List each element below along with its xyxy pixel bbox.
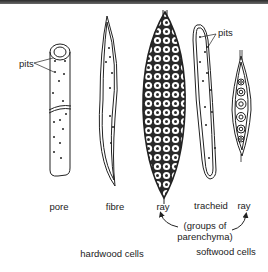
softwood-ray-cell [232,50,251,162]
parenchyma-annotation-line2: parenchyma) [177,231,232,242]
pore-cell [34,44,71,176]
fibre-label: fibre [106,201,124,212]
tracheid-cell [193,25,216,179]
softwood-group-label: softwood cells [196,246,256,257]
pore-label: pore [49,201,68,212]
hardwood-group-label: hardwood cells [80,248,143,259]
softwood-ray-label: ray [237,200,250,211]
hardwood-ray-cell [143,10,185,204]
fibre-cell [99,16,117,186]
hardwood-ray-label: ray [156,201,169,212]
parenchyma-annotation-line1: (groups of [184,220,227,231]
pits-label-right: pits [218,27,233,38]
pits-label-left: pits [19,58,34,69]
tracheid-label: tracheid [194,200,228,211]
